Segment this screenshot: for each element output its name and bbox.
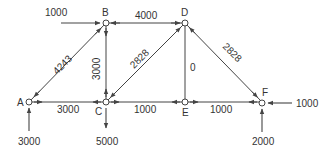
node-label-f: F [262, 87, 268, 98]
load-label-f-horizontal: 1000 [296, 98, 319, 109]
arrow-cd-at-c [111, 91, 118, 98]
arrow-ab-at-b [95, 28, 101, 34]
member-force-labels: 4243 3000 3000 4000 2828 1000 0 2828 100… [51, 10, 245, 115]
force-label-bd: 4000 [135, 10, 158, 21]
node-label-d: D [181, 7, 188, 18]
member-cd [106, 23, 185, 102]
force-label-ef: 1000 [210, 104, 233, 115]
load-label-b: 1000 [45, 7, 68, 18]
force-label-df: 2828 [221, 41, 245, 65]
load-label-c: 5000 [96, 136, 119, 147]
node-d [182, 20, 188, 26]
arrow-ab-at-a [34, 91, 40, 97]
force-label-ce: 1000 [134, 104, 157, 115]
node-a [26, 99, 32, 105]
load-label-f-vertical: 2000 [252, 136, 275, 147]
node-f [259, 100, 265, 106]
member-df [185, 23, 262, 102]
node-e [182, 99, 188, 105]
load-label-a: 3000 [18, 136, 41, 147]
arrow-df-at-d [190, 28, 196, 34]
arrow-df-at-f [252, 92, 258, 98]
force-label-cd: 2828 [128, 47, 152, 71]
node-label-a: A [17, 97, 24, 108]
external-loads [29, 23, 292, 132]
force-label-de: 0 [190, 62, 196, 73]
arrow-cd-at-d [174, 28, 181, 35]
node-label-e: E [182, 107, 189, 118]
force-label-ac: 3000 [57, 104, 80, 115]
node-label-c: C [95, 106, 102, 117]
load-labels: 1000 3000 5000 1000 2000 [18, 7, 319, 147]
force-label-bc: 3000 [91, 57, 102, 80]
node-label-b: B [102, 7, 109, 18]
node-b [103, 20, 109, 26]
truss-diagram: A B C D E F 4243 3000 3000 4000 2828 100… [0, 0, 330, 154]
force-label-ab: 4243 [51, 53, 75, 77]
node-c [103, 99, 109, 105]
